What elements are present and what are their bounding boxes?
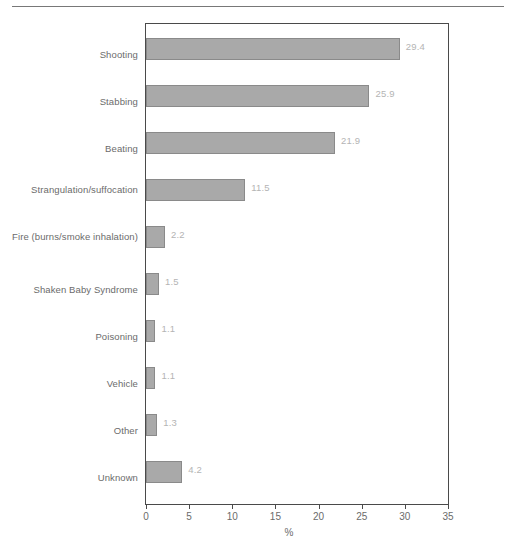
x-axis-tick-label: 25 [356,511,367,522]
x-axis-tick-label: 10 [227,511,238,522]
bar-row: 29.4 [146,26,448,73]
y-axis-label: Vehicle [0,378,138,390]
x-axis-title: % [0,527,514,538]
bar-value-label: 2.2 [171,229,185,240]
y-axis-label: Other [0,425,138,437]
x-axis-tick [448,505,449,509]
y-axis-label: Poisoning [0,331,138,343]
bar-value-label: 21.9 [341,135,360,146]
bar [146,273,159,295]
bar-row: 1.3 [146,402,448,449]
bar-value-label: 1.5 [165,276,179,287]
x-axis-tick [146,505,147,509]
x-axis-tick [275,505,276,509]
y-axis-label: Stabbing [0,96,138,108]
x-axis-title-text: % [285,527,294,538]
bar-row: 11.5 [146,167,448,214]
x-axis-tick-label: 20 [313,511,324,522]
bar [146,179,245,201]
bar-row: 1.5 [146,261,448,308]
x-axis-tick-label: 15 [270,511,281,522]
x-axis-ticks: 05101520253035 [146,505,448,511]
x-axis-tick-label: 30 [399,511,410,522]
bar-value-label: 1.1 [161,370,175,381]
bar [146,414,157,436]
x-axis-tick [189,505,190,509]
x-axis-tick-label: 35 [442,511,453,522]
x-axis-tick [362,505,363,509]
bar [146,461,182,483]
x-axis-tick [232,505,233,509]
bar [146,226,165,248]
bar-value-label: 29.4 [406,41,425,52]
bar [146,367,155,389]
x-axis-tick-label: 0 [143,511,149,522]
bar-value-label: 25.9 [375,88,394,99]
bar-value-label: 1.1 [161,323,175,334]
bar-row: 1.1 [146,355,448,402]
x-axis-tick-label: 5 [186,511,192,522]
bar-row: 2.2 [146,214,448,261]
bar-row: 25.9 [146,73,448,120]
y-axis-label: Fire (burns/smoke inhalation) [0,231,138,243]
bar-row: 1.1 [146,308,448,355]
y-axis-label: Beating [0,143,138,155]
bar-row: 21.9 [146,120,448,167]
y-axis-label: Unknown [0,472,138,484]
bar [146,38,400,60]
bar-value-label: 1.3 [163,417,177,428]
y-axis-label: Shooting [0,49,138,61]
bar [146,132,335,154]
header-divider [12,6,504,7]
x-axis-tick [319,505,320,509]
y-axis-category-labels: ShootingStabbingBeatingStrangulation/suf… [0,24,138,504]
bar-row: 4.2 [146,449,448,496]
bar [146,85,369,107]
x-axis-tick [405,505,406,509]
bar-chart-plot-area: 29.425.921.911.52.21.51.11.11.34.2 [146,24,448,504]
bar [146,320,155,342]
bar-value-label: 4.2 [188,464,202,475]
y-axis-label: Shaken Baby Syndrome [0,284,138,296]
y-axis-label: Strangulation/suffocation [0,184,138,196]
bar-value-label: 11.5 [251,182,270,193]
